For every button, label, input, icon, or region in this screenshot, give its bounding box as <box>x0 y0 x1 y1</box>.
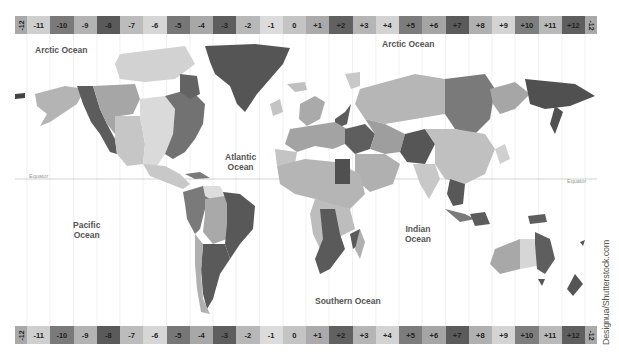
timezone-offset-label: -4 <box>198 331 205 340</box>
world-map: Equator Equator Arctic Ocean Arctic Ocea… <box>15 34 597 326</box>
ocean-name: Atlantic <box>225 152 256 162</box>
timezone-offset-label: -5 <box>175 21 182 30</box>
timezone-cell: -5 <box>167 16 190 34</box>
timezone-cell: +5 <box>399 16 422 34</box>
timezone-offset-label: +9 <box>499 331 508 340</box>
timezone-offset-label: -12 <box>588 20 595 30</box>
timezone-strip-top: -12-11-10-9-8-7-6-5-4-3-2-10+1+2+3+4+5+6… <box>15 16 597 34</box>
timezone-cell: +10 <box>515 326 538 344</box>
timezone-cell: -12 <box>15 326 27 344</box>
timezone-offset-label: -12 <box>18 20 25 30</box>
arctic-ocean-label-east: Arctic Ocean <box>382 39 434 49</box>
timezone-offset-label: -7 <box>128 21 135 30</box>
timezone-cell: -11 <box>27 326 50 344</box>
timezone-offset-label: -3 <box>221 331 228 340</box>
timezone-cell: -9 <box>74 326 97 344</box>
timezone-offset-label: -1 <box>268 21 275 30</box>
ocean-name: Southern Ocean <box>315 296 381 306</box>
timezone-cell: +10 <box>515 16 538 34</box>
timezone-offset-label: -10 <box>56 331 67 340</box>
north-america <box>15 46 210 189</box>
timezone-offset-label: -8 <box>105 331 112 340</box>
timezone-cell: -7 <box>120 16 143 34</box>
timezone-cell: -6 <box>143 326 166 344</box>
timezone-cell: +12 <box>562 326 585 344</box>
timezone-cell: -3 <box>213 16 236 34</box>
timezone-offset-label: +1 <box>313 331 322 340</box>
timezone-cell: +8 <box>469 16 492 34</box>
equator-label-right: Equator <box>567 178 586 184</box>
timezone-offset-label: -12 <box>18 330 25 340</box>
timezone-cell: -10 <box>50 326 73 344</box>
timezone-cell: -4 <box>190 326 213 344</box>
timezone-offset-label: -1 <box>268 331 275 340</box>
timezone-cell: -10 <box>50 16 73 34</box>
timezone-cell: +8 <box>469 326 492 344</box>
ocean-name-line2: Ocean <box>405 234 431 244</box>
timezone-offset-label: -3 <box>221 21 228 30</box>
ocean-name: Pacific <box>73 220 100 230</box>
timezone-offset-label: +3 <box>360 331 369 340</box>
timezone-cell: 0 <box>283 326 306 344</box>
timezone-cell: +7 <box>446 326 469 344</box>
timezone-offset-label: +11 <box>544 21 556 30</box>
timezone-offset-label: +7 <box>453 331 462 340</box>
ocean-name-line2: Ocean <box>74 230 100 240</box>
timezone-cell: +12 <box>562 16 585 34</box>
timezone-cell: -2 <box>236 326 259 344</box>
timezone-offset-label: +3 <box>360 21 369 30</box>
timezone-offset-label: -11 <box>33 331 43 340</box>
timezone-cell: -8 <box>97 326 120 344</box>
timezone-cell: +2 <box>329 326 352 344</box>
ocean-name: Indian <box>405 224 430 234</box>
timezone-cell: +5 <box>399 326 422 344</box>
timezone-offset-label: +7 <box>453 21 462 30</box>
timezone-offset-label: -4 <box>198 21 205 30</box>
world-map-graphic <box>15 34 597 326</box>
timezone-cell: +9 <box>492 326 515 344</box>
timezone-offset-label: +2 <box>337 331 346 340</box>
equator-label-left: Equator <box>29 173 48 179</box>
timezone-cell: +4 <box>376 16 399 34</box>
ocean-name: Arctic Ocean <box>382 39 434 49</box>
timezone-offset-label: +10 <box>521 21 534 30</box>
asia <box>355 74 595 226</box>
atlantic-ocean-label: AtlanticOcean <box>225 152 256 172</box>
timezone-cell: -1 <box>260 326 283 344</box>
pacific-ocean-label: PacificOcean <box>73 220 100 240</box>
timezone-offset-label: -10 <box>56 21 67 30</box>
timezone-cell: +4 <box>376 326 399 344</box>
timezone-offset-label: +9 <box>499 21 508 30</box>
timezone-offset-label: -5 <box>175 331 182 340</box>
southern-ocean-label: Southern Ocean <box>315 296 381 306</box>
timezone-offset-label: -2 <box>245 331 252 340</box>
timezone-cell: +3 <box>353 16 376 34</box>
europe <box>270 72 375 166</box>
timezone-cell: -12 <box>585 16 597 34</box>
timezone-offset-label: +4 <box>383 21 392 30</box>
timezone-offset-label: +12 <box>567 331 580 340</box>
timezone-cell: +3 <box>353 326 376 344</box>
oceania <box>490 214 585 296</box>
timezone-cell: -11 <box>27 16 50 34</box>
timezone-cell: +6 <box>422 16 445 34</box>
timezone-cell: +9 <box>492 16 515 34</box>
timezone-cell: -1 <box>260 16 283 34</box>
timezone-cell: +6 <box>422 326 445 344</box>
africa <box>277 159 365 274</box>
timezone-offset-label: -11 <box>33 21 43 30</box>
timezone-offset-label: +5 <box>406 331 415 340</box>
timezone-offset-label: -2 <box>245 21 252 30</box>
timezone-offset-label: +5 <box>406 21 415 30</box>
timezone-offset-label: -9 <box>82 21 89 30</box>
timezone-cell: -12 <box>585 326 597 344</box>
timezone-cell: -7 <box>120 326 143 344</box>
timezone-cell: -3 <box>213 326 236 344</box>
timezone-cell: 0 <box>283 16 306 34</box>
timezone-cell: +1 <box>306 16 329 34</box>
timezone-offset-label: -9 <box>82 331 89 340</box>
timezone-offset-label: +1 <box>313 21 322 30</box>
timezone-cell: -12 <box>15 16 27 34</box>
timezone-offset-label: -6 <box>152 21 159 30</box>
south-america <box>183 186 255 314</box>
